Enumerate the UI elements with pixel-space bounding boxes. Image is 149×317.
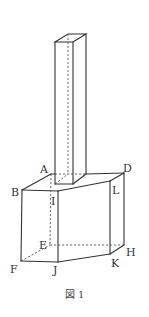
label-L: L xyxy=(112,184,120,197)
edge-AE-hidden xyxy=(50,174,51,245)
label-F: F xyxy=(10,263,18,276)
label-E: E xyxy=(39,239,47,252)
edge-IB xyxy=(22,190,58,191)
edge-BF xyxy=(21,190,22,261)
solid-figure-diagram: A B D L I E H F J K xyxy=(0,0,149,317)
pillar-base-right-edge xyxy=(73,174,86,184)
label-D: D xyxy=(123,162,132,175)
pillar xyxy=(55,34,86,184)
edge-LI xyxy=(58,181,110,191)
base-block xyxy=(21,173,124,262)
label-K: K xyxy=(111,257,120,270)
edge-BA xyxy=(22,174,51,190)
edge-KH xyxy=(110,245,124,254)
edge-JK xyxy=(58,254,110,262)
edge-DL xyxy=(110,173,124,181)
edge-pillar-D xyxy=(86,173,124,174)
label-I: I xyxy=(51,195,55,208)
label-B: B xyxy=(11,186,19,199)
edge-FJ xyxy=(21,261,58,262)
label-J: J xyxy=(52,264,57,277)
pillar-base-hidden-left xyxy=(55,174,68,184)
label-H: H xyxy=(126,246,136,259)
pillar-top-face xyxy=(55,34,86,42)
label-A: A xyxy=(39,163,49,176)
figure-caption: 図 1 xyxy=(0,286,149,301)
